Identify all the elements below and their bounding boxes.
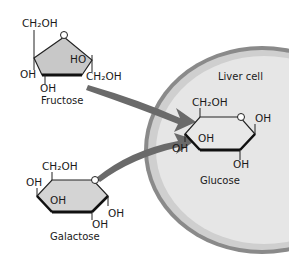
galactose-ring-oxygen (92, 177, 99, 184)
galactose-oh-mid: OH (50, 194, 66, 206)
glucose-oh-mid: OH (198, 132, 214, 144)
galactose-oh-left: OH (26, 176, 42, 188)
sugar-conversion-diagram: Liver cell CH₂OH HO CH₂OH OH OH Fructose… (0, 0, 289, 254)
galactose-label: Galactose (50, 231, 100, 242)
galactose-ch2oh: CH₂OH (42, 160, 78, 172)
fructose-label: Fructose (41, 95, 83, 106)
fructose-oh-bottom: OH (40, 82, 56, 94)
fructose-ch2oh-right: CH₂OH (86, 70, 122, 82)
glucose-label: Glucose (200, 175, 240, 186)
galactose-oh-bottom: OH (92, 218, 108, 230)
fructose-ch2oh-top: CH₂OH (22, 17, 58, 29)
glucose-oh-bottom: OH (233, 158, 249, 170)
fructose-oh-left: OH (20, 68, 36, 80)
glucose-oh-right: OH (255, 112, 271, 124)
glucose-oh-left: OH (172, 142, 188, 154)
galactose-oh-right: OH (108, 207, 124, 219)
fructose-ring-oxygen (61, 32, 68, 39)
glucose-ring-oxygen (238, 114, 245, 121)
glucose-ch2oh: CH₂OH (192, 96, 228, 108)
fructose-ho: HO (70, 53, 86, 65)
cell-label: Liver cell (218, 71, 263, 82)
